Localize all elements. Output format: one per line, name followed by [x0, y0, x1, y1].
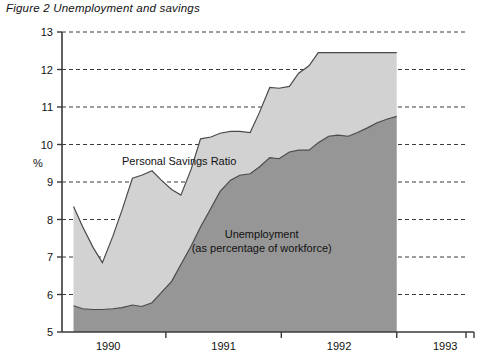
figure-title: Figure 2 Unemployment and savings [6, 2, 200, 14]
y-tick-label-11: 11 [42, 101, 53, 113]
y-tick-label-7: 7 [47, 251, 53, 263]
x-tick-label-1991: 1991 [211, 340, 235, 352]
x-tick-label-1993: 1993 [433, 340, 457, 352]
y-tick-label-8: 8 [47, 214, 53, 226]
chart-plot-area: 5678910111213%1990199119921993 Personal … [0, 20, 496, 356]
unemployment-label-line2: (as percentage of workforce) [192, 242, 332, 254]
unemployment-savings-area-chart: 5678910111213%1990199119921993 Personal … [0, 20, 496, 356]
y-tick-label-12: 12 [41, 64, 53, 76]
y-tick-label-5: 5 [47, 326, 53, 338]
y-tick-label-13: 13 [41, 26, 53, 38]
unemployment-label-line1: Unemployment [225, 228, 299, 240]
x-tick-label-1992: 1992 [327, 340, 351, 352]
savings-label: Personal Savings Ratio [122, 155, 236, 167]
x-tick-label-1990: 1990 [96, 340, 120, 352]
y-axis-unit-label: % [33, 157, 43, 169]
y-tick-label-10: 10 [41, 139, 53, 151]
y-tick-label-6: 6 [47, 289, 53, 301]
series-areas-group [74, 53, 397, 332]
y-tick-label-9: 9 [47, 176, 53, 188]
